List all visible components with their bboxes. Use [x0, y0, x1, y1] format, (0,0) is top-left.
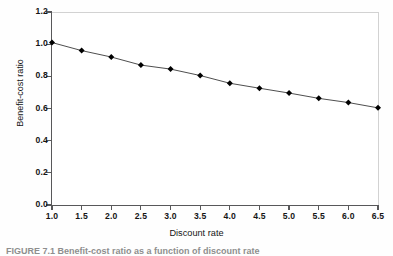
data-series	[0, 0, 393, 256]
data-point-1.0	[49, 40, 55, 46]
data-point-3.0	[168, 66, 174, 72]
data-point-1.5	[79, 48, 85, 54]
data-point-4.5	[256, 85, 262, 91]
data-point-5.5	[316, 95, 322, 101]
data-point-5.0	[286, 90, 292, 96]
data-point-2.0	[108, 54, 114, 60]
data-point-2.5	[138, 62, 144, 68]
data-point-6.0	[345, 100, 351, 106]
data-point-6.5	[375, 105, 381, 111]
data-point-4.0	[227, 80, 233, 86]
series-line	[52, 43, 378, 108]
figure-container: 0.00.20.40.60.81.01.2 1.01.52.02.53.03.5…	[0, 0, 393, 256]
data-point-3.5	[197, 73, 203, 79]
x-axis-title: Discount rate	[0, 228, 393, 238]
figure-caption: FIGURE 7.1 Benefit-cost ratio as a funct…	[6, 246, 393, 256]
y-axis-title: Benefit-cost ratio	[15, 18, 25, 168]
